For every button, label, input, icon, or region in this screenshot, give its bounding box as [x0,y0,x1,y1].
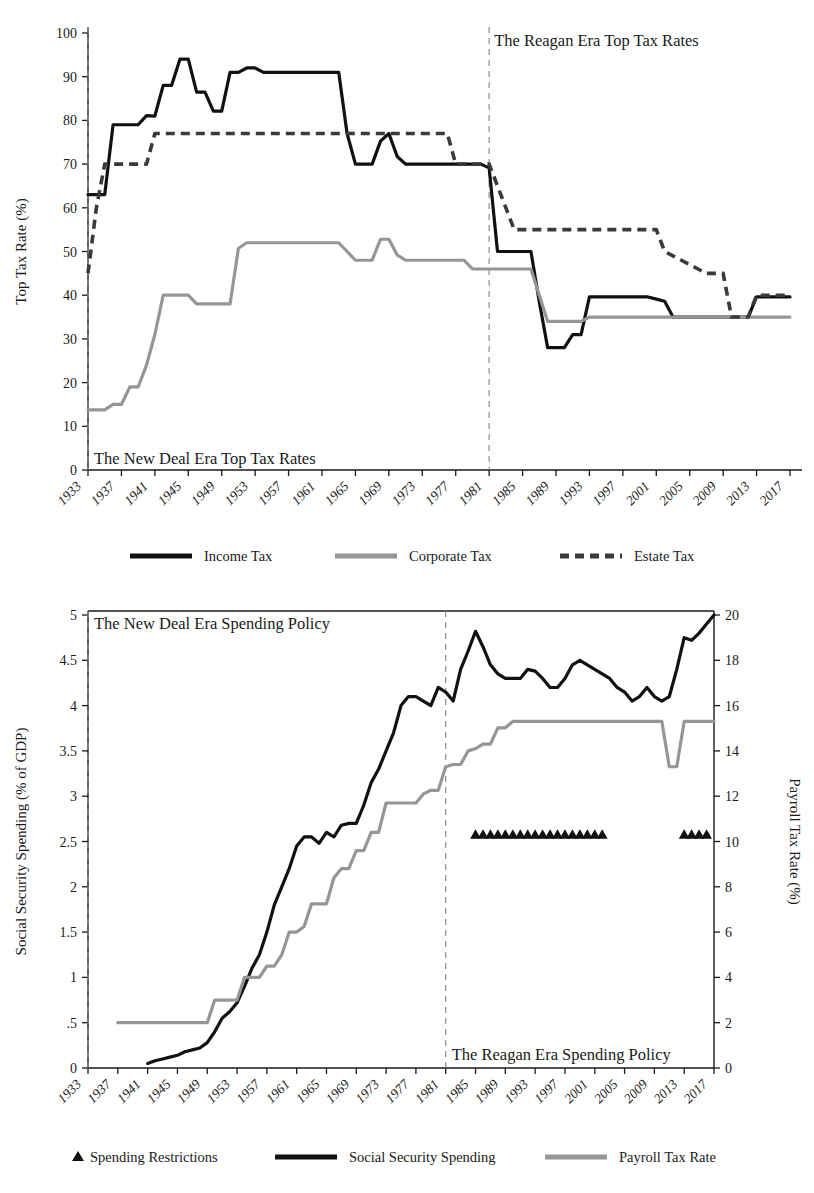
x-tick-label: 2001 [561,1077,591,1107]
y-tick-label: 90 [63,70,77,85]
legend-label-1: Corporate Tax [409,548,493,564]
top-tax-rates-chart: 0102030405060708090100Top Tax Rate (%)19… [0,0,814,590]
x-tick-label: 2005 [591,1076,621,1106]
x-tick-label: 1993 [556,478,586,508]
x-tick-label: 2017 [680,1076,711,1107]
annotation-reagan-spending: The Reagan Era Spending Policy [452,1045,672,1064]
x-tick-label: 1937 [84,1076,115,1107]
y-axis-title-left: Social Security Spending (% of GDP) [13,728,30,956]
x-tick-label: 1989 [522,478,552,508]
x-tick-label: 1933 [54,1076,84,1106]
y-tick-label: 60 [63,201,77,216]
x-tick-label: 1989 [472,1076,502,1106]
x-tick-label: 1981 [412,1077,442,1107]
y-tick-label-left: 5 [70,608,77,623]
y-tick-label-left: 3 [70,789,77,804]
y-tick-label-left: 0 [70,1061,77,1076]
y-tick-label-right: 20 [725,608,739,623]
x-tick-label: 1973 [389,478,419,508]
legend-triangle-marker [72,1151,84,1161]
y-tick-label-left: .5 [67,1016,78,1031]
x-tick-label: 2009 [690,478,720,508]
x-tick-label: 1969 [355,478,385,508]
annotation-new-deal-spending: The New Deal Era Spending Policy [94,614,331,633]
y-tick-label-right: 16 [725,699,739,714]
y-tick-label-left: 3.5 [60,744,78,759]
series-line-income-tax [88,59,790,347]
series-line-corporate-tax [88,239,790,410]
x-tick-label: 1985 [442,1076,472,1106]
y-axis-title: Top Tax Rate (%) [13,198,30,304]
x-tick-label: 1997 [589,478,620,509]
y-tick-label-left: 2 [70,880,77,895]
y-tick-label: 40 [63,288,77,303]
x-tick-label: 1941 [114,1077,144,1107]
top-chart-svg-holder: 0102030405060708090100Top Tax Rate (%)19… [0,0,814,590]
x-tick-label: 1977 [382,1076,413,1107]
x-tick-label: 1953 [222,478,252,508]
y-tick-label: 70 [63,157,77,172]
y-tick-label-right: 8 [725,880,732,895]
x-tick-label: 2001 [623,479,653,509]
annotation-new-deal-era: The New Deal Era Top Tax Rates [94,449,316,468]
y-tick-label-right: 2 [725,1016,732,1031]
x-tick-label: 1993 [502,1076,532,1106]
series-line-estate-tax [88,134,790,318]
x-tick-label: 1997 [531,1076,562,1107]
y-tick-label: 20 [63,376,77,391]
bottom-chart-svg-holder: 0.511.522.533.544.5502468101214161820Soc… [0,590,814,1193]
y-tick-label-right: 18 [725,653,739,668]
top-chart-canvas: 0102030405060708090100Top Tax Rate (%)19… [0,0,814,590]
y-tick-label-right: 12 [725,789,739,804]
triangle-marker [597,829,608,839]
x-tick-label: 1961 [288,479,318,509]
y-tick-label-left: 4.5 [60,653,78,668]
x-tick-label: 1941 [121,479,151,509]
spending-restriction-markers [470,829,712,839]
series-line-social-security-spending [148,615,714,1063]
x-tick-label: 1973 [353,1076,383,1106]
legend-label-0: Income Tax [204,548,273,564]
y-tick-label: 30 [63,332,77,347]
legend-label-0: Spending Restrictions [90,1149,218,1165]
y-tick-label-right: 14 [725,744,739,759]
bottom-chart-canvas: 0.511.522.533.544.5502468101214161820Soc… [0,590,814,1193]
legend-label-2: Estate Tax [634,548,695,564]
y-tick-label: 0 [70,463,77,478]
triangle-marker [701,829,712,839]
y-axis-title-right: Payroll Tax Rate (%) [786,778,803,905]
x-tick-label: 1953 [203,1076,233,1106]
y-tick-label-right: 4 [725,970,732,985]
x-tick-label: 1937 [88,478,119,509]
x-tick-label: 1965 [322,478,352,508]
x-tick-label: 1961 [263,1077,293,1107]
x-tick-label: 2013 [651,1076,681,1106]
x-tick-label: 1957 [255,478,286,509]
y-tick-label-right: 6 [725,925,732,940]
y-tick-label: 50 [63,245,77,260]
x-tick-label: 2009 [621,1076,651,1106]
x-tick-label: 1949 [188,478,218,508]
legend-label-1: Social Security Spending [349,1149,496,1165]
x-tick-label: 1957 [233,1076,264,1107]
y-tick-label: 100 [56,26,77,41]
annotation-reagan-era: The Reagan Era Top Tax Rates [494,31,699,50]
y-tick-label-left: 2.5 [60,835,78,850]
x-tick-label: 2005 [656,478,686,508]
x-tick-label: 1933 [54,478,84,508]
spending-policy-chart: 0.511.522.533.544.5502468101214161820Soc… [0,590,814,1193]
x-tick-label: 2013 [723,478,753,508]
x-tick-label: 1985 [489,478,519,508]
x-tick-label: 1969 [323,1076,353,1106]
y-tick-label-left: 1 [70,970,77,985]
y-tick-label-left: 4 [70,699,77,714]
series-line-payroll-tax-rate [118,721,714,1022]
x-tick-label: 1965 [293,1076,323,1106]
x-tick-label: 1981 [456,479,486,509]
y-tick-label: 10 [63,419,77,434]
y-tick-label-left: 1.5 [60,925,78,940]
x-tick-label: 1945 [144,1076,174,1106]
x-tick-label: 1977 [422,478,453,509]
x-tick-label: 2017 [756,478,787,509]
y-tick-label: 80 [63,113,77,128]
